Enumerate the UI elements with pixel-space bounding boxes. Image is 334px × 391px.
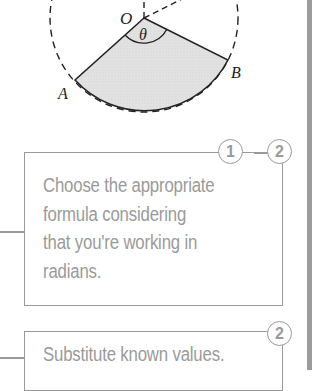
step-box-2: Substitute known values. [24, 331, 283, 391]
step-badge-2-second: 2 [267, 321, 292, 346]
label-point-a: A [57, 85, 68, 102]
left-connector-step-1 [0, 231, 25, 233]
label-center-o: O [120, 9, 132, 28]
step-2-text: Substitute known values. [43, 340, 267, 369]
label-theta: θ [139, 26, 147, 43]
side-bar [307, 0, 312, 370]
badge-connector-1-2 [254, 152, 268, 154]
step-badge-1: 1 [218, 139, 243, 164]
step-box-1: Choose the appropriate formula consideri… [24, 152, 283, 306]
step-1-text: Choose the appropriate formula consideri… [43, 171, 215, 285]
shaded-sector [75, 18, 228, 111]
step-badge-2: 2 [267, 139, 292, 164]
left-connector-step-2 [0, 357, 25, 359]
sector-diagram: O θ B A [0, 0, 334, 130]
dashed-radius [144, 0, 184, 18]
label-point-b: B [231, 64, 241, 81]
